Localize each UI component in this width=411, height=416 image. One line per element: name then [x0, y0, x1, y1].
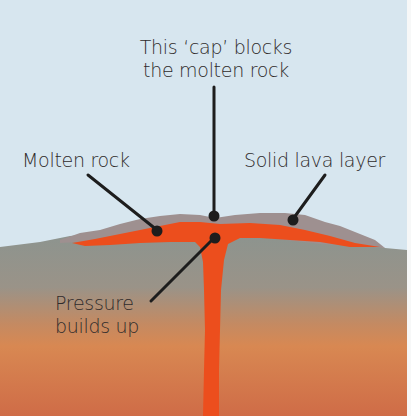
cap-label-line-1: This ‘cap’ blocks: [128, 36, 304, 59]
pressure-label-line-2: builds up: [55, 315, 139, 338]
solid-lava-pointer-dot: [288, 215, 299, 226]
pressure-label: Pressure builds up: [55, 292, 139, 338]
cap-label-line-2: the molten rock: [128, 59, 304, 82]
pressure-pointer-dot: [210, 233, 221, 244]
pressure-label-line-1: Pressure: [55, 292, 139, 315]
solid-lava-label: Solid lava layer: [244, 149, 385, 172]
cap-label: This ‘cap’ blocks the molten rock: [128, 36, 304, 82]
molten-rock-pointer-dot: [152, 226, 163, 237]
cap-pointer-dot: [209, 211, 220, 222]
molten-rock-label: Molten rock: [22, 149, 130, 172]
volcano-diagram: This ‘cap’ blocks the molten rock Molten…: [0, 0, 407, 416]
image-border: [407, 0, 411, 416]
